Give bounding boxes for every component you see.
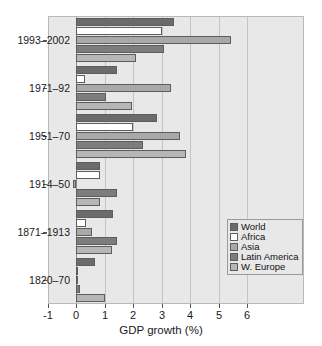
legend-swatch-world	[230, 223, 238, 231]
bar	[76, 45, 164, 53]
gridline	[48, 16, 49, 304]
y-tick-label: 1871–1913	[0, 226, 70, 238]
x-tick-label: 4	[178, 308, 202, 322]
bar	[76, 189, 117, 197]
bar	[76, 294, 105, 302]
bar	[76, 228, 92, 236]
bar	[76, 276, 78, 284]
bar	[76, 219, 86, 227]
bar	[76, 114, 157, 122]
bar	[76, 36, 231, 44]
plot-background-negative-region	[48, 16, 77, 304]
bar	[73, 180, 76, 188]
bar	[76, 84, 171, 92]
bar	[76, 66, 117, 74]
y-tick-label: 1820–70	[0, 274, 70, 286]
legend-swatch-latin-america	[230, 253, 238, 261]
y-tick-label: 1971–92	[0, 82, 70, 94]
x-tick-label: 0	[64, 308, 88, 322]
bar	[76, 54, 136, 62]
legend-swatch-africa	[230, 233, 238, 241]
x-tick-label: 6	[235, 308, 259, 322]
bar	[76, 246, 112, 254]
bar	[76, 123, 133, 131]
legend-item: W. Europe	[230, 262, 299, 272]
x-axis-label: GDP growth (%)	[0, 324, 322, 336]
bar	[76, 27, 162, 35]
x-tick-label: 1	[93, 308, 117, 322]
y-tick-label: 1951–70	[0, 130, 70, 142]
y-tick-label: 1914–50	[0, 178, 70, 190]
bar	[76, 171, 100, 179]
bar	[76, 162, 100, 170]
bar	[76, 75, 85, 83]
bar	[76, 102, 132, 110]
bar	[76, 93, 106, 101]
bar	[76, 141, 143, 149]
x-tick-label: 2	[121, 308, 145, 322]
gridline	[162, 16, 163, 304]
bar	[76, 18, 174, 26]
gdp-growth-bar-chart: -10123456 1993–20021971–921951–701914–50…	[0, 0, 322, 346]
bar	[76, 237, 117, 245]
y-tick-label: 1993–2002	[0, 34, 70, 46]
x-tick-label: 5	[207, 308, 231, 322]
bar	[76, 267, 78, 275]
bar	[76, 150, 186, 158]
legend: World Africa Asia Latin America W. Europ…	[227, 219, 303, 275]
x-tick-label: -1	[36, 308, 60, 322]
bar	[76, 210, 113, 218]
x-tick-label: 3	[150, 308, 174, 322]
bar	[76, 285, 80, 293]
bar	[76, 198, 100, 206]
legend-swatch-w-europe	[230, 263, 238, 271]
legend-label-w-europe: W. Europe	[241, 262, 285, 272]
bar	[76, 258, 95, 266]
legend-swatch-asia	[230, 243, 238, 251]
bar	[76, 132, 180, 140]
gridline	[190, 16, 191, 304]
gridline	[219, 16, 220, 304]
